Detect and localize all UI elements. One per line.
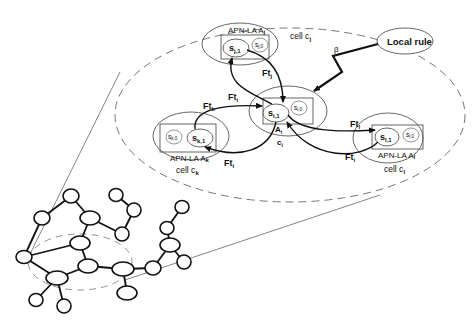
- network-node: [70, 236, 90, 250]
- beta-arrow: [314, 44, 378, 91]
- cell-label-j: cell cj: [290, 31, 311, 42]
- ft-j-label: Ftj: [262, 68, 273, 79]
- apn-label-j: APN-LA Aj: [228, 26, 266, 35]
- network-node: [109, 189, 123, 202]
- beta-label: β: [334, 45, 339, 54]
- network-node: [78, 259, 98, 273]
- network-node: [145, 261, 161, 275]
- ft-l-label: Ftl: [350, 119, 361, 130]
- network-node: [115, 227, 129, 241]
- apn-label-l: APN-LA Al: [378, 151, 416, 160]
- local-rule-label: Local rule: [387, 36, 432, 47]
- network-node: [46, 271, 68, 285]
- network-node: [29, 294, 43, 307]
- network-node: [57, 299, 71, 313]
- apn-label-k: APN-LA Ak: [170, 154, 210, 163]
- network-node: [177, 255, 191, 269]
- ft-i-left-label: Fti: [224, 158, 235, 169]
- cellular-automata-diagram: APN-LA Aj cell cj sj,1 sj,0 si,1 si,0 Ai…: [0, 0, 473, 326]
- cell-i: si,1 si,0 Ai ci: [249, 86, 327, 148]
- cell-label-i: ci: [277, 138, 283, 148]
- network-node: [160, 238, 180, 252]
- network-node: [117, 286, 137, 300]
- network-node: [112, 262, 134, 276]
- cell-j: APN-LA Aj cell cj sj,1 sj,0: [202, 23, 311, 65]
- zoomed-neighborhood-boundary: [115, 28, 465, 202]
- network-node: [16, 251, 32, 264]
- ft-i-top-label: Fti: [228, 92, 239, 103]
- local-rule: Local rule β: [314, 28, 433, 91]
- ft-arrows: [195, 50, 378, 154]
- cell-k: sk,0 sk,1 APN-LA Ak cell ck: [153, 112, 229, 176]
- ft-k-label: Ftk: [203, 101, 216, 112]
- network-node: [127, 203, 141, 217]
- network-node: [80, 211, 100, 225]
- network-edges: [24, 195, 184, 306]
- network-node: [63, 189, 79, 203]
- network-node: [34, 211, 50, 225]
- network-node: [175, 201, 189, 214]
- automaton-label-i: Ai: [275, 125, 283, 135]
- network-node: [160, 222, 174, 235]
- cell-label-l: cell cl: [384, 164, 405, 175]
- cell-l: sl,1 sl,0 APN-LA Al cell cl: [353, 113, 423, 175]
- cell-label-k: cell ck: [176, 165, 199, 176]
